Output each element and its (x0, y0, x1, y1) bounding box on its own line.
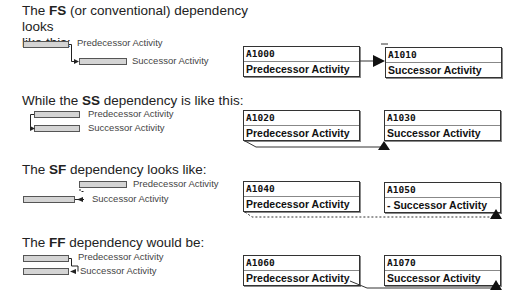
fs-gantt-arrow-icon (74, 59, 79, 64)
sf-gantt-connector (80, 189, 85, 192)
ff-network-arrow-icon (490, 280, 502, 290)
ff-gantt-connector (69, 259, 78, 272)
fs-network-arrow-icon (373, 55, 385, 67)
fs-gantt-connector (69, 45, 77, 62)
ss-network-line (245, 141, 384, 147)
ss-gantt-connector (31, 115, 35, 129)
ss-network-arrow-icon (378, 141, 390, 150)
ss-gantt-arrow-icon (30, 126, 35, 131)
sf-gantt-arrow-icon (77, 197, 83, 202)
sf-network-line (245, 212, 496, 217)
dependency-connectors (0, 0, 515, 302)
ff-gantt-arrow-icon (70, 269, 76, 274)
sf-network-arrow-icon (490, 209, 502, 219)
ff-network-line (350, 281, 496, 288)
